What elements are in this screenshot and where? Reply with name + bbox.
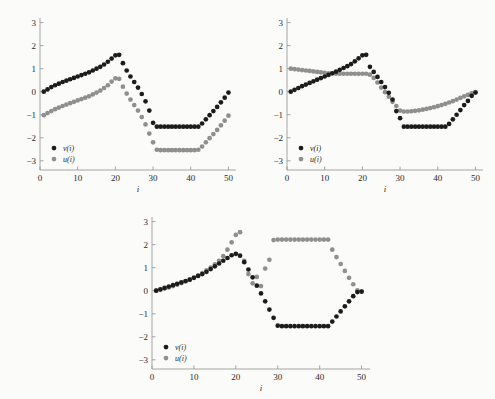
data-point [347,299,352,304]
chart-top-right-ytick-label: 0 [279,87,284,97]
data-point [200,121,205,126]
legend-label: v(i) [310,144,321,153]
data-point [147,131,152,136]
data-point [200,272,205,277]
chart-bottom-xtick-label: 0 [150,372,155,382]
data-point [368,72,373,77]
data-point [296,324,301,329]
chart-bottom-container: −3−2−1012301020304050iv(i)u(i) [118,203,380,399]
chart-top-left-xtick-label: 0 [38,173,43,183]
data-point [226,90,231,95]
chart-top-right-xtick-label: 10 [320,173,330,183]
data-point [139,115,144,120]
chart-top-left-ytick-label: −2 [26,133,36,143]
data-point [106,59,111,64]
data-point [390,97,395,102]
data-point [196,124,201,129]
data-point [147,108,152,113]
legend-marker [52,157,57,162]
data-point [451,117,456,122]
data-point [271,238,276,243]
chart-top-left-ytick-label: 0 [32,87,37,97]
chart-top-right-xtick-label: 50 [471,173,481,183]
chart-top-left-xtick-label: 30 [149,173,159,183]
data-point [250,275,255,280]
data-point [313,237,318,242]
data-point [326,237,331,242]
legend-marker [52,146,57,151]
chart-top-right-container: −3−2−1012301020304050iv(i)u(i) [255,4,493,200]
data-point [162,286,167,291]
chart-top-right-ytick-label: 3 [279,18,284,28]
chart-top-right-xtick-label: 30 [396,173,406,183]
chart-top-right-xlabel: i [384,184,387,194]
legend-label: v(i) [175,343,186,352]
data-point [322,324,327,329]
data-point [386,91,391,96]
data-point [356,56,361,61]
data-point [250,281,255,286]
data-point [128,74,133,79]
data-point [211,132,216,137]
legend-label: v(i) [63,144,74,153]
data-point [109,56,114,61]
data-point [349,62,354,67]
data-point [246,272,251,277]
data-point [234,252,239,257]
data-point [458,108,463,113]
chart-top-right-ytick-label: −2 [273,133,283,143]
data-point [238,230,243,235]
chart-top-left-container: −3−2−1012301020304050iv(i)u(i) [8,4,246,200]
data-point [222,118,227,123]
data-point [226,113,231,118]
data-point [338,309,343,314]
data-point [280,324,285,329]
data-point [343,269,348,274]
chart-top-right-xtick-label: 20 [358,173,368,183]
data-point [271,316,276,321]
chart-top-left-series-vi [41,53,230,130]
data-point [267,257,272,262]
chart-top-right-series-ui [288,66,477,114]
data-point [192,275,197,280]
data-point [443,124,448,129]
data-point [364,53,369,58]
data-point [179,280,184,285]
chart-top-right-xtick-label: 40 [433,173,443,183]
data-point [254,275,259,280]
data-point [124,68,129,73]
data-point [309,237,314,242]
chart-bottom-xtick-label: 10 [189,372,199,382]
data-point [154,288,159,293]
data-point [309,324,314,329]
data-point [398,116,403,121]
data-point [359,289,364,294]
data-point [246,267,251,272]
data-point [394,109,399,114]
data-point [469,93,474,98]
data-point [330,319,335,324]
data-point [136,85,141,90]
data-point [351,294,356,299]
chart-bottom-series-ui [154,230,364,294]
data-point [117,76,122,81]
data-point [143,99,148,104]
legend-marker [164,345,169,350]
data-point [213,264,218,269]
data-point [196,274,201,279]
data-point [466,99,471,104]
data-point [330,247,335,252]
data-point [196,147,201,152]
data-point [368,64,373,69]
data-point [151,140,156,145]
data-point [334,314,339,319]
data-point [109,79,114,84]
chart-bottom-ytick-label: −2 [138,332,148,342]
chart-bottom-xtick-label: 40 [315,372,325,382]
data-point [462,103,467,108]
data-point [204,117,209,122]
data-point [238,253,243,258]
data-point [208,267,213,272]
data-point [305,237,310,242]
chart-bottom-xtick-label: 50 [357,372,367,382]
